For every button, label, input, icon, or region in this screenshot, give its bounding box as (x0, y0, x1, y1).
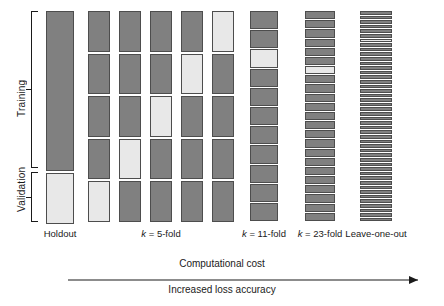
training-block (119, 11, 141, 52)
training-block (305, 48, 335, 56)
training-block (360, 85, 392, 89)
training-block (305, 158, 335, 166)
caption-computational-cost: Computational cost (0, 258, 444, 269)
training-block (360, 181, 392, 185)
training-block (250, 69, 278, 87)
training-block (150, 139, 172, 180)
k-symbol: k (298, 228, 303, 239)
training-block (360, 190, 392, 194)
training-block (360, 112, 392, 116)
training-block (360, 66, 392, 70)
training-block (360, 94, 392, 98)
training-block (360, 25, 392, 29)
training-block (305, 94, 335, 102)
training-block (212, 54, 234, 95)
training-block (305, 130, 335, 138)
training-block (360, 98, 392, 102)
training-block (360, 158, 392, 162)
training-block (150, 181, 172, 222)
training-block (305, 29, 335, 37)
fold-column-kfold23 (305, 11, 335, 222)
training-block (360, 62, 392, 66)
condition-label-kfold5: k = 5-fold (101, 228, 221, 239)
validation-block (212, 11, 234, 52)
training-block (150, 11, 172, 52)
training-block (181, 181, 203, 222)
training-block (119, 181, 141, 222)
training-block (360, 75, 392, 79)
training-block (360, 167, 392, 171)
training-block (250, 11, 278, 29)
training-block (360, 16, 392, 20)
training-block (360, 195, 392, 199)
training-block (360, 186, 392, 190)
training-block (305, 149, 335, 157)
training-block (360, 213, 392, 217)
training-block (212, 139, 234, 180)
training-block (88, 139, 110, 180)
training-block (250, 107, 278, 125)
training-block (305, 176, 335, 184)
training-block (305, 112, 335, 120)
training-block (360, 52, 392, 56)
training-block (360, 71, 392, 75)
condition-label-leave-one-out: Leave-one-out (316, 228, 436, 239)
fold-column-kfold5-col2 (119, 11, 141, 222)
training-block (250, 145, 278, 163)
training-block (181, 139, 203, 180)
validation-block (250, 49, 278, 67)
training-block (305, 75, 335, 83)
training-block (181, 96, 203, 137)
training-block (360, 89, 392, 93)
training-block (46, 11, 74, 171)
training-block (88, 96, 110, 137)
training-block (360, 176, 392, 180)
training-block (212, 96, 234, 137)
training-block (360, 144, 392, 148)
training-block (250, 203, 278, 221)
training-block (360, 172, 392, 176)
training-block (360, 29, 392, 33)
fold-column-kfold5-col3 (150, 11, 172, 222)
training-block (360, 130, 392, 134)
training-block (360, 107, 392, 111)
training-block (360, 209, 392, 213)
training-block (305, 194, 335, 202)
training-block (250, 126, 278, 144)
validation-block (119, 139, 141, 180)
training-block (360, 163, 392, 167)
training-block (305, 185, 335, 193)
k-symbol: k (141, 228, 146, 239)
training-block (360, 117, 392, 121)
training-block (305, 213, 335, 221)
training-block (250, 88, 278, 106)
training-block (88, 11, 110, 52)
training-block (250, 30, 278, 48)
training-block (305, 167, 335, 175)
fold-column-leave-one-out (360, 11, 392, 222)
caption-increased-loss-accuracy: Increased loss accuracy (0, 284, 444, 295)
fold-column-kfold5-col4 (181, 11, 203, 222)
training-block (360, 135, 392, 139)
training-block (305, 103, 335, 111)
training-block (360, 48, 392, 52)
training-block (360, 103, 392, 107)
training-block (305, 84, 335, 92)
training-block (250, 165, 278, 183)
training-block (150, 54, 172, 95)
training-block (360, 34, 392, 38)
fold-columns-area (0, 0, 444, 225)
training-block (360, 149, 392, 153)
training-block (360, 80, 392, 84)
training-block (360, 153, 392, 157)
validation-block (150, 96, 172, 137)
validation-block (88, 181, 110, 222)
training-block (305, 39, 335, 47)
training-block (305, 204, 335, 212)
fold-column-kfold5-col1 (88, 11, 110, 222)
training-block (88, 54, 110, 95)
training-block (360, 11, 392, 15)
k-symbol: k (242, 228, 247, 239)
training-block (360, 126, 392, 130)
training-block (305, 57, 335, 65)
